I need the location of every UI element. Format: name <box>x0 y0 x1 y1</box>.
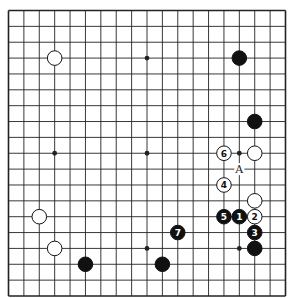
hoshi-point <box>145 56 150 61</box>
white-stone <box>32 209 47 224</box>
white-stone-6: 6 <box>217 146 232 161</box>
white-stone <box>47 241 62 256</box>
move-number: 4 <box>221 180 227 190</box>
move-number: 1 <box>236 212 242 222</box>
move-number: 3 <box>252 228 258 238</box>
move-number: 6 <box>221 149 227 159</box>
black-stone <box>247 114 262 129</box>
black-stone-3: 3 <box>247 225 262 240</box>
hoshi-point <box>237 151 242 156</box>
white-stone <box>47 51 62 66</box>
board-mark-label: A <box>234 163 244 176</box>
move-number: 5 <box>221 212 227 222</box>
hoshi-point <box>145 246 150 251</box>
go-board: A 6451237 <box>0 0 294 298</box>
board-marks: A <box>234 163 244 176</box>
white-stone-4: 4 <box>217 178 232 193</box>
black-stone <box>247 241 262 256</box>
black-stone-7: 7 <box>170 225 185 240</box>
white-stone-2: 2 <box>247 209 262 224</box>
hoshi-point <box>145 151 150 156</box>
black-stone-5: 5 <box>217 209 232 224</box>
black-stone <box>78 257 93 272</box>
svg-text:A: A <box>234 163 244 176</box>
hoshi-point <box>237 246 242 251</box>
hoshi-point <box>52 151 57 156</box>
black-stone <box>155 257 170 272</box>
black-stone <box>232 51 247 66</box>
black-stone-1: 1 <box>232 209 247 224</box>
move-number: 7 <box>175 228 181 238</box>
white-stone <box>247 146 262 161</box>
move-number: 2 <box>252 212 258 222</box>
white-stone <box>247 194 262 209</box>
